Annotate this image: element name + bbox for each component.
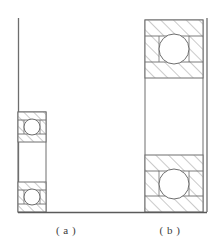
panel-a-lower-bearing — [18, 182, 46, 212]
panel-b-group — [145, 18, 207, 212]
figure-drawing — [0, 0, 222, 247]
rolling-ball — [159, 169, 189, 199]
rolling-ball — [159, 34, 189, 64]
panel-a-group — [18, 18, 46, 212]
caption-b: ( b ) — [118, 224, 222, 236]
panel-a-upper-bearing — [18, 112, 46, 142]
bearing-arrangement-figure: ( a ) ( b ) — [0, 0, 222, 247]
caption-a: ( a ) — [0, 224, 132, 236]
rolling-ball — [24, 189, 40, 205]
panel-b-lower-bearing — [145, 155, 203, 212]
rolling-ball — [24, 119, 40, 135]
panel-b-upper-bearing — [145, 20, 203, 78]
